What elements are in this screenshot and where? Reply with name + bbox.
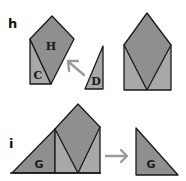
arrow-icon-right — [106, 150, 127, 162]
shape-h-left-composite: H C — [30, 16, 74, 84]
panel-i: i G G — [9, 104, 178, 175]
piece-label-h: H — [46, 40, 56, 53]
shape-d: D — [85, 46, 103, 89]
piece-g-right — [136, 128, 178, 175]
puzzle-diagram: h H C D i — [0, 0, 186, 181]
panel-label-h: h — [8, 16, 17, 31]
panel-h: h H C D — [8, 13, 171, 90]
piece-label-g-left: G — [34, 158, 43, 171]
arrow-icon-up-left — [68, 61, 84, 75]
piece-label-d: D — [91, 75, 101, 88]
shape-i-left-composite: G — [10, 104, 101, 173]
panel-label-i: i — [9, 136, 13, 151]
piece-label-c: C — [34, 69, 43, 82]
shape-g-result: G — [136, 128, 178, 175]
shape-h-result — [124, 13, 171, 90]
piece-label-g-right: G — [146, 158, 155, 171]
